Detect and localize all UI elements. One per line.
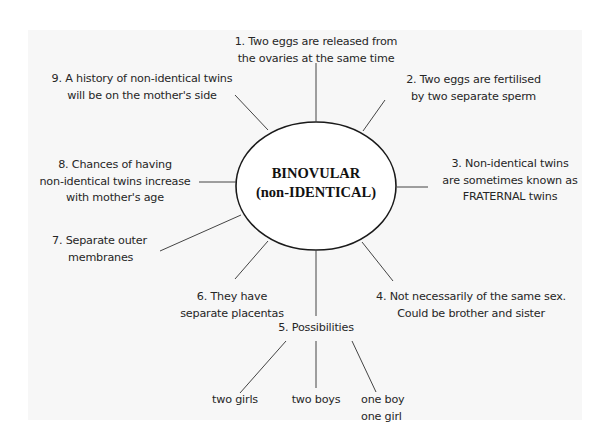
connector-4 bbox=[362, 242, 393, 281]
center-label: BINOVULAR (non-IDENTICAL) bbox=[236, 164, 396, 202]
possibility-two-boys: two boys bbox=[279, 392, 353, 409]
node-3-label: 3. Non-identical twins are sometimes kno… bbox=[434, 156, 586, 206]
node-4-label: 4. Not necessarily of the same sex. Coul… bbox=[355, 289, 587, 322]
node-1-label: 1. Two eggs are released from the ovarie… bbox=[210, 34, 422, 67]
center-label-line1: BINOVULAR bbox=[236, 164, 396, 183]
node-5-label: 5. Possibilities bbox=[256, 320, 376, 337]
connector-two-girls bbox=[240, 341, 286, 393]
connector-2 bbox=[363, 100, 385, 131]
connector-7 bbox=[160, 215, 241, 251]
possibility-two-girls: two girls bbox=[200, 392, 270, 409]
node-8-label: 8. Chances of having non-identical twins… bbox=[30, 157, 200, 207]
node-2-label: 2. Two eggs are fertilised by two separa… bbox=[386, 72, 561, 105]
node-7-label: 7. Separate outer membranes bbox=[52, 233, 162, 266]
possibility-one-boy-one-girl: one boy one girl bbox=[361, 392, 431, 425]
node-9-label: 9. A history of non-identical twins will… bbox=[36, 71, 248, 104]
node-6-label: 6. They have separate placentas bbox=[170, 289, 294, 322]
center-label-line2: (non-IDENTICAL) bbox=[236, 183, 396, 202]
connector-6 bbox=[235, 241, 268, 279]
connector-one-boy-one-girl bbox=[352, 341, 376, 392]
